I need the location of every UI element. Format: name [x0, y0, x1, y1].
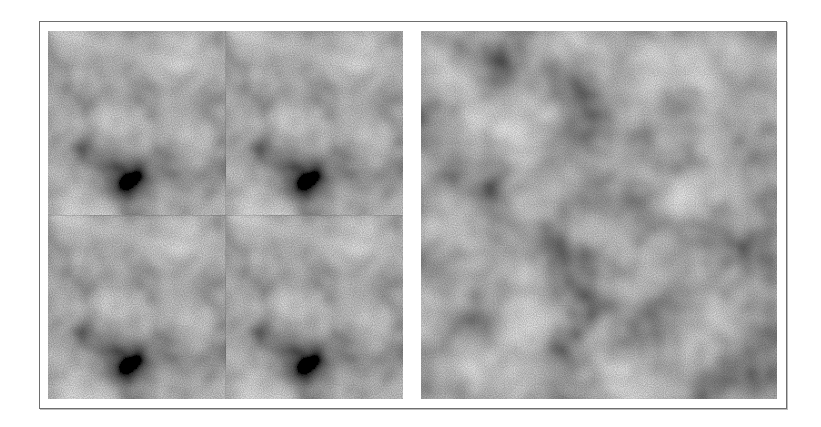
texture-synth-svg — [421, 31, 777, 399]
tiled-texture-image — [48, 31, 403, 399]
tile-seam-horizontal — [48, 215, 403, 216]
synthesized-texture-image — [421, 31, 777, 399]
